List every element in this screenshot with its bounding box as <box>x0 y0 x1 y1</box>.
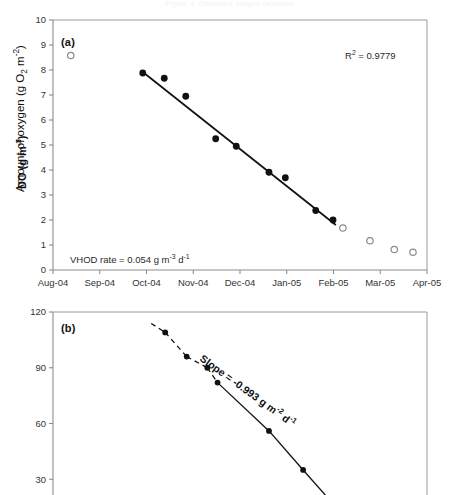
figure-container: Figure 4. Dissolved oxygen depletion 012… <box>0 0 453 495</box>
vhod-mid: d <box>176 254 184 265</box>
panel-a-y-tick-label: 3 <box>41 189 46 200</box>
panel-a-y-tick-label: 5 <box>41 139 46 150</box>
y-title-b-sub: 2 <box>20 69 29 74</box>
panel-a-y-tick-label: 9 <box>41 39 46 50</box>
y-title-b-a: Amount of oxygen (g O <box>14 74 26 192</box>
y-title-b-end: ) <box>14 45 26 49</box>
panel-b-filled-data-point <box>266 428 272 434</box>
panel-a-x-tick-label: Dec-04 <box>225 277 256 288</box>
panel-a-x-tick-label: Apr-05 <box>413 277 442 288</box>
panel-a-open-data-point <box>68 52 74 58</box>
panel-b-trend-segment <box>269 431 303 470</box>
r-squared-base: R <box>345 50 352 61</box>
panel-a-open-data-point <box>367 238 373 244</box>
y-title-b-b: m <box>14 56 26 69</box>
panel-a-x-tick-label: Mar-05 <box>365 277 395 288</box>
vhod-unit-exp-2: -1 <box>184 253 190 260</box>
r-squared-value: = 0.9779 <box>356 50 396 61</box>
panel-a-filled-data-point <box>233 143 240 150</box>
panel-b-trend-segment <box>165 332 187 356</box>
panel-a-filled-data-point <box>330 217 337 224</box>
figure-faint-header: Figure 4. Dissolved oxygen depletion <box>110 0 350 12</box>
r-squared-annotation: R2 = 0.9779 <box>345 50 396 61</box>
panel-a-y-tick-label: 10 <box>35 14 46 25</box>
y-title-b-exp: -2 <box>12 49 21 56</box>
panel-a-x-tick-label: Jan-05 <box>272 277 301 288</box>
panel-a-x-tick-label: Feb-05 <box>318 277 348 288</box>
panel-a-open-data-point <box>391 246 397 252</box>
panel-b-label: (b) <box>61 322 76 334</box>
panel-a-filled-data-point <box>312 207 319 214</box>
panel-a-x-tick-label: Aug-04 <box>38 277 69 288</box>
panel-b-trend-segment <box>303 470 347 495</box>
panel-a-x-tick-label: Oct-04 <box>132 277 161 288</box>
panel-b-y-tick-label: 90 <box>35 362 46 373</box>
panel-a-y-tick-label: 4 <box>41 164 46 175</box>
panel-a-dissolved-oxygen: 012345678910Aug-04Sep-04Oct-04Nov-04Dec-… <box>0 14 453 294</box>
panel-b-oxygen-amount: 306090120 (b) <box>0 300 453 495</box>
panel-a-y-tick-label: 0 <box>41 264 46 275</box>
panel-b-y-tick-label: 120 <box>30 306 46 317</box>
panel-a-filled-data-point <box>161 75 168 82</box>
vhod-text: VHOD rate = 0.054 g m <box>70 254 170 265</box>
panel-a-y-tick-label: 2 <box>41 214 46 225</box>
panel-a-y-tick-label: 7 <box>41 89 46 100</box>
vhod-rate-annotation: VHOD rate = 0.054 g m-3 d-1 <box>70 254 190 265</box>
panel-a-filled-data-point <box>282 174 289 181</box>
panel-a-filled-data-point <box>266 169 273 176</box>
panel-a-y-tick-label: 8 <box>41 64 46 75</box>
panel-a-open-data-point <box>340 225 346 231</box>
panel-a-filled-data-point <box>139 70 146 77</box>
panel-a-x-tick-label: Nov-04 <box>178 277 209 288</box>
panel-b-y-axis-title: Amount of oxygen (g O2 m-2) <box>14 45 26 192</box>
panel-b-y-tick-label: 60 <box>35 418 46 429</box>
panel-b-filled-data-point <box>184 354 190 360</box>
panel-b-filled-data-point <box>162 330 168 336</box>
panel-a-x-tick-label: Sep-04 <box>84 277 115 288</box>
panel-a-label: (a) <box>61 36 75 48</box>
panel-a-filled-data-point <box>182 93 189 100</box>
panel-a-y-tick-label: 6 <box>41 114 46 125</box>
panel-b-y-tick-label: 30 <box>35 474 46 485</box>
panel-a-open-data-point <box>410 249 416 255</box>
panel-a-y-tick-label: 1 <box>41 239 46 250</box>
panel-b-filled-data-point <box>300 467 306 473</box>
panel-a-filled-data-point <box>212 135 219 142</box>
panel-b-filled-data-point <box>215 380 221 386</box>
